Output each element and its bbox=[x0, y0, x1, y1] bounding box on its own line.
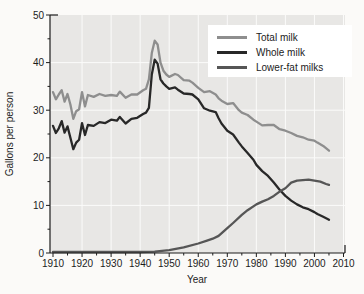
x-tick-label: 1980 bbox=[245, 258, 268, 269]
legend-item-lower-fat-milks: Lower-fat milks bbox=[217, 60, 352, 75]
y-tick-label: 30 bbox=[33, 105, 45, 116]
x-tick-label: 1940 bbox=[129, 258, 152, 269]
y-tick-label: 20 bbox=[33, 152, 45, 163]
legend-swatch-lower-fat-milks bbox=[217, 66, 247, 69]
y-tick-label: 40 bbox=[33, 57, 45, 68]
chart-legend: Total milk Whole milk Lower-fat milks bbox=[208, 25, 352, 77]
x-tick-label: 1910 bbox=[42, 258, 65, 269]
x-tick-label: 1990 bbox=[274, 258, 297, 269]
x-tick-label: 1970 bbox=[216, 258, 239, 269]
legend-label-total-milk: Total milk bbox=[256, 33, 298, 43]
y-tick-label: 0 bbox=[38, 248, 44, 259]
y-tick-label: 50 bbox=[33, 10, 45, 21]
milk-consumption-line-chart: 1910192019301940195019601970198019902000… bbox=[0, 0, 364, 294]
legend-item-whole-milk: Whole milk bbox=[217, 45, 352, 60]
x-tick-label: 1950 bbox=[158, 258, 181, 269]
legend-label-lower-fat-milks: Lower-fat milks bbox=[256, 63, 323, 73]
x-tick-label: 1930 bbox=[100, 258, 123, 269]
legend-swatch-total-milk bbox=[217, 36, 247, 39]
legend-swatch-whole-milk bbox=[217, 51, 247, 54]
y-tick-label: 10 bbox=[33, 200, 45, 211]
x-tick-label: 1920 bbox=[71, 258, 94, 269]
x-tick-label: 2010 bbox=[332, 258, 355, 269]
legend-label-whole-milk: Whole milk bbox=[256, 48, 305, 58]
x-tick-label: 1960 bbox=[187, 258, 210, 269]
x-tick-label: 2000 bbox=[303, 258, 326, 269]
legend-item-total-milk: Total milk bbox=[217, 30, 352, 45]
y-axis-title: Gallons per person bbox=[4, 92, 15, 177]
x-axis-title: Year bbox=[187, 274, 208, 285]
